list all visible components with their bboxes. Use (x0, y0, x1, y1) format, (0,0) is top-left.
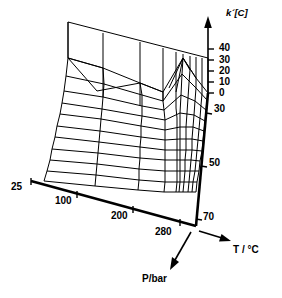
z-tick-20: 20 (219, 66, 230, 76)
y-tick-50: 50 (209, 158, 220, 168)
z-tick-40: 40 (219, 43, 230, 53)
figure-3d-surface-plot: k´[C] 40 30 20 10 0 30 50 70 25 100 200 … (0, 0, 282, 298)
x-tick-25: 25 (11, 182, 22, 192)
y-axis-name: P/bar (142, 274, 167, 284)
x-tick-280: 280 (155, 227, 172, 237)
y-tick-70: 70 (203, 212, 214, 222)
z-axis-label: k´[C] (226, 8, 248, 18)
z-tick-0: 0 (219, 88, 225, 98)
y-tick-30: 30 (214, 104, 225, 114)
z-tick-10: 10 (219, 77, 230, 87)
x-tick-200: 200 (111, 211, 128, 221)
x-axis-name: T / °C (233, 245, 259, 255)
x-tick-100: 100 (55, 196, 72, 206)
z-tick-30: 30 (219, 55, 230, 65)
